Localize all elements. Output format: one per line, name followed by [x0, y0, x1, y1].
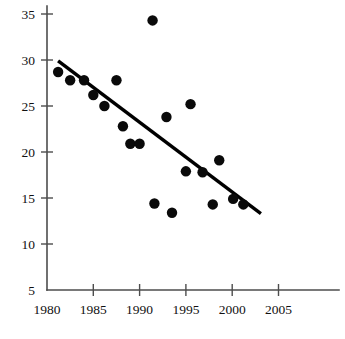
data-point-marker: [53, 67, 63, 77]
data-point-marker: [149, 198, 159, 208]
x-tick-label: 1980: [34, 302, 61, 317]
y-tick-label: 35: [22, 7, 36, 22]
data-point-marker: [99, 101, 109, 111]
data-point-marker: [185, 99, 195, 109]
data-point-marker: [161, 112, 171, 122]
data-point-marker: [167, 208, 177, 218]
x-tick-label: 2005: [265, 302, 292, 317]
scatter-chart: 5101520253035 198019851990199520002005: [0, 0, 345, 339]
x-tick-label: 1995: [172, 302, 199, 317]
data-point-marker: [228, 194, 238, 204]
data-point-marker: [134, 139, 144, 149]
y-tick-label: 20: [22, 145, 36, 160]
data-point-marker: [181, 166, 191, 176]
data-point-marker: [197, 167, 207, 177]
data-point-marker: [118, 121, 128, 131]
data-point-marker: [238, 199, 248, 209]
data-point-marker: [79, 75, 89, 85]
axis-lines: [47, 6, 339, 290]
data-point-marker: [147, 15, 157, 25]
trend-line: [58, 61, 261, 214]
y-tick-label: 25: [22, 99, 36, 114]
data-point-marker: [88, 90, 98, 100]
y-axis: 5101520253035: [22, 7, 54, 298]
data-point-marker: [65, 75, 75, 85]
y-tick-label: 15: [22, 191, 36, 206]
x-axis: 198019851990199520002005: [34, 284, 293, 317]
data-points: [53, 15, 249, 218]
y-tick-label: 10: [22, 237, 36, 252]
y-tick-label: 30: [22, 53, 36, 68]
trend-line-segment: [58, 61, 261, 214]
x-tick-label: 2000: [219, 302, 246, 317]
x-tick-label: 1990: [126, 302, 153, 317]
data-point-marker: [208, 199, 218, 209]
data-point-marker: [125, 139, 135, 149]
plot-area: 5101520253035 198019851990199520002005: [0, 0, 345, 339]
y-tick-label: 5: [28, 283, 35, 298]
data-point-marker: [111, 75, 121, 85]
x-tick-label: 1985: [80, 302, 107, 317]
data-point-marker: [214, 155, 224, 165]
